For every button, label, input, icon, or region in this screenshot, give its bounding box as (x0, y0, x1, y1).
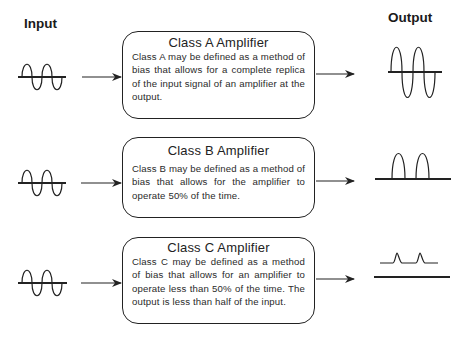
class-c-output-waveform-icon (374, 253, 450, 277)
class-a-output-waveform-icon (388, 47, 442, 97)
input-sine-wave-icon (18, 64, 66, 90)
class-b-output-waveform-icon (375, 154, 451, 180)
diagram-graphics (0, 0, 469, 343)
arrow-right-icon (316, 74, 354, 279)
input-sine-wave-icon (18, 170, 66, 196)
arrow-right-icon (81, 77, 121, 283)
input-sine-wave-icon (18, 270, 67, 296)
